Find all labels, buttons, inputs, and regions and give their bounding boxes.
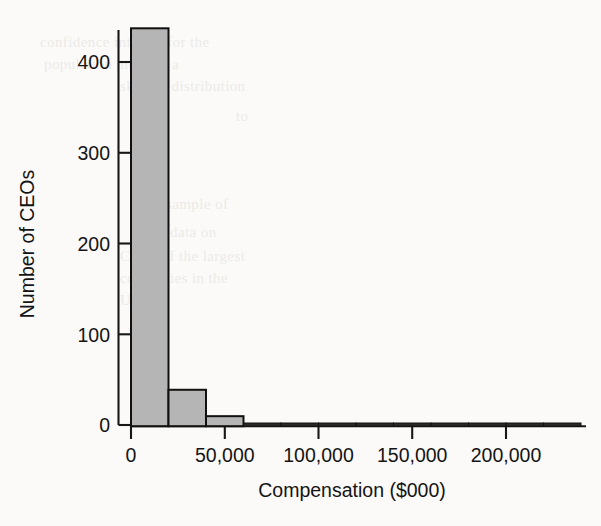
y-tick-label: 400 bbox=[77, 51, 110, 73]
histogram-bar bbox=[469, 423, 507, 426]
histogram-chart: 0 100 200 300 400 Number of CEOs 0 50,00… bbox=[0, 0, 601, 526]
y-axis-ticks bbox=[119, 62, 132, 425]
y-tick-label: 300 bbox=[77, 142, 110, 164]
x-tick-label: 50,000 bbox=[195, 444, 255, 466]
histogram-bar bbox=[131, 28, 169, 426]
histogram-bar bbox=[394, 423, 432, 426]
histogram-bar bbox=[206, 416, 244, 426]
figure-page: confidence interval for thepopulation me… bbox=[0, 0, 601, 526]
y-tick-label: 0 bbox=[99, 414, 110, 436]
histogram-bar bbox=[506, 423, 544, 426]
y-axis-tick-labels: 0 100 200 300 400 bbox=[77, 51, 110, 436]
x-axis-title: Compensation ($000) bbox=[258, 479, 446, 501]
histogram-bar bbox=[356, 423, 394, 426]
x-tick-label: 0 bbox=[126, 444, 137, 466]
x-axis-tick-labels: 0 50,000 100,000 150,000 200,000 bbox=[126, 444, 542, 466]
y-tick-label: 200 bbox=[77, 233, 110, 255]
histogram-bar bbox=[281, 423, 319, 426]
y-axis-title: Number of CEOs bbox=[16, 170, 38, 319]
histogram-bars bbox=[131, 28, 581, 426]
x-axis-ticks bbox=[131, 426, 506, 439]
x-tick-label: 150,000 bbox=[377, 444, 448, 466]
y-tick-label: 100 bbox=[77, 324, 110, 346]
histogram-bar bbox=[431, 423, 469, 426]
histogram-bar bbox=[319, 423, 357, 426]
histogram-bar bbox=[244, 423, 282, 426]
x-tick-label: 100,000 bbox=[283, 444, 354, 466]
histogram-bar bbox=[169, 390, 207, 426]
histogram-bar bbox=[544, 423, 582, 426]
x-tick-label: 200,000 bbox=[471, 444, 542, 466]
